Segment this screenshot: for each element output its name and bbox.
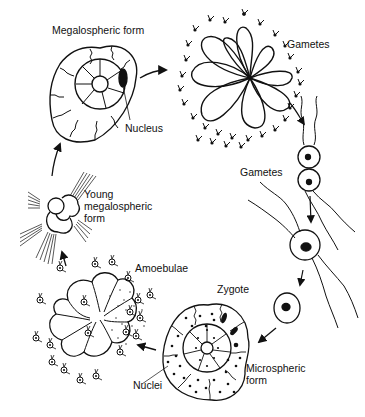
label-gametes-middle: Gametes <box>240 166 283 178</box>
label-young-line1: Young <box>84 188 174 200</box>
label-zygote: Zygote <box>217 283 249 295</box>
diagram-artwork <box>0 0 365 417</box>
microspheric-form-shell <box>163 304 249 400</box>
label-microspheric-form: Microspheric form <box>246 362 336 386</box>
fusing-gametes <box>248 182 358 328</box>
label-megalospheric-form: Megalospheric form <box>52 24 144 36</box>
label-microspheric-line2: form <box>246 374 336 386</box>
young-megalospheric-shell <box>47 195 80 233</box>
released-gametes <box>178 9 304 149</box>
foraminifera-life-cycle-diagram: Megalospheric form Nucleus Gametes Gamet… <box>0 0 365 417</box>
gamete-releasing-shell <box>192 27 292 128</box>
zygote <box>274 293 300 323</box>
megalospheric-form-shell <box>50 46 137 142</box>
label-amoebulae: Amoebulae <box>135 262 188 274</box>
label-gametes-top: Gametes <box>287 38 330 50</box>
paired-gametes <box>298 96 355 250</box>
label-young-megalospheric-form: Young megalospheric form <box>84 188 174 224</box>
label-nucleus: Nucleus <box>125 122 163 134</box>
label-young-line3: form <box>84 212 174 224</box>
label-microspheric-line1: Microspheric <box>246 362 336 374</box>
label-nuclei: Nuclei <box>133 379 162 391</box>
label-young-line2: megalospheric <box>84 200 174 212</box>
amoebulae-shell <box>50 273 137 356</box>
